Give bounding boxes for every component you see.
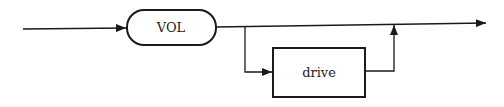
optional-drive-label: drive: [302, 65, 336, 80]
return-branch-line: [365, 25, 394, 71]
optional-branch-line: [245, 27, 272, 72]
main-line-arrow: [216, 23, 486, 27]
keyword-vol-node: VOL: [127, 10, 216, 45]
keyword-vol-label: VOL: [156, 20, 186, 35]
entry-arrow: [23, 28, 126, 29]
syntax-diagram: VOL drive: [0, 0, 504, 107]
optional-drive-node: drive: [273, 48, 365, 97]
